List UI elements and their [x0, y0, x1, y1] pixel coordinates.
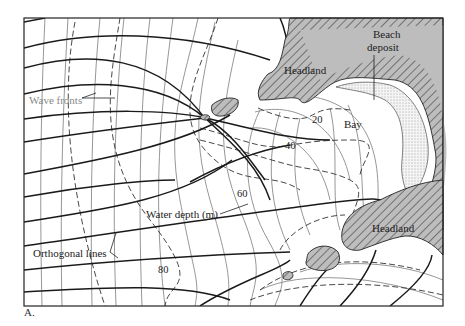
headland-top-label: Headland [284, 64, 327, 76]
depth-contour-40-label: 40 [285, 140, 296, 151]
headland-bottom-label: Headland [372, 222, 415, 234]
wave-fronts-label: Wave fronts [29, 94, 82, 106]
water-depth-arrow [220, 204, 248, 214]
headland-south [342, 180, 443, 255]
wave-refraction-diagram: Wave fronts Headland Beach deposit Bay 2… [0, 0, 465, 326]
bay-label: Bay [344, 118, 362, 130]
beach-deposit [336, 82, 428, 200]
island-north [200, 98, 238, 120]
island-south [283, 246, 340, 280]
orthogonal-lines-label: Orthogonal lines [33, 247, 107, 259]
beach-deposit-label-line2: deposit [367, 41, 399, 53]
depth-contour-80-label: 80 [158, 264, 169, 275]
beach-deposit-label-line1: Beach [373, 28, 401, 40]
water-depth-label: Water depth (m) [146, 208, 218, 221]
depth-contour-20-label: 20 [312, 114, 323, 125]
figure-caption: A. [24, 306, 35, 318]
depth-contour-60-label: 60 [237, 188, 248, 199]
